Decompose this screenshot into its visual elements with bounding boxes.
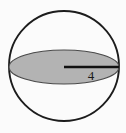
sphere-diagram: 4: [0, 0, 126, 133]
figure-canvas: 4: [0, 0, 126, 133]
radius-length-label: 4: [88, 68, 95, 83]
